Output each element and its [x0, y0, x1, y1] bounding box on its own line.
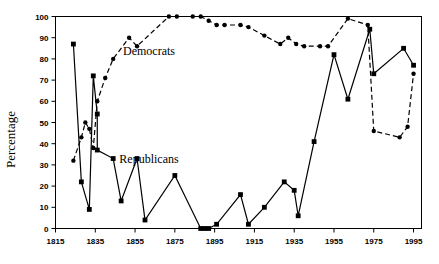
data-point-marker: [119, 199, 124, 204]
data-point-marker: [111, 156, 116, 161]
data-point-marker: [262, 205, 267, 210]
data-point-marker: [292, 188, 297, 193]
data-point-marker: [111, 57, 115, 61]
data-point-marker: [332, 52, 337, 57]
series-annotation: Republicans: [119, 152, 179, 166]
data-point-marker: [95, 148, 100, 153]
data-point-marker: [411, 72, 415, 76]
data-point-marker: [246, 25, 250, 29]
y-tick-label: 30: [40, 161, 49, 170]
data-point-marker: [372, 129, 376, 133]
y-tick-label: 100: [35, 13, 49, 22]
x-tick-label: 1875: [166, 237, 184, 246]
data-point-marker: [143, 218, 148, 223]
data-point-marker: [206, 226, 211, 231]
y-axis-ticks: 0102030405060708090100: [35, 13, 55, 234]
x-tick-label: 1975: [365, 237, 383, 246]
data-point-marker: [246, 222, 251, 227]
data-point-marker: [127, 36, 131, 40]
data-point-marker: [238, 192, 243, 197]
y-axis-title: Percentage: [3, 111, 18, 168]
data-point-marker: [401, 46, 406, 51]
x-tick-label: 1895: [206, 237, 224, 246]
y-tick-label: 40: [40, 140, 49, 149]
data-point-marker: [367, 27, 372, 32]
data-point-marker: [91, 73, 96, 78]
data-point-marker: [71, 42, 76, 47]
y-tick-label: 60: [40, 97, 49, 106]
data-point-marker: [294, 42, 298, 46]
data-point-marker: [397, 135, 401, 139]
y-tick-label: 10: [40, 203, 49, 212]
y-tick-label: 80: [40, 55, 49, 64]
data-point-marker: [302, 44, 306, 48]
series-line-republicans: [73, 29, 413, 228]
y-tick-label: 20: [40, 182, 49, 191]
data-point-marker: [103, 76, 107, 80]
data-point-marker: [214, 23, 218, 27]
data-point-marker: [71, 158, 75, 162]
data-point-marker: [167, 14, 171, 18]
data-point-marker: [199, 14, 203, 18]
data-point-marker: [79, 179, 84, 184]
data-point-marker: [83, 120, 87, 124]
data-point-marker: [278, 42, 282, 46]
series-democrats: [71, 14, 416, 163]
x-tick-label: 1915: [246, 237, 264, 246]
x-tick-label: 1955: [325, 237, 343, 246]
data-point-marker: [282, 179, 287, 184]
data-point-marker: [222, 23, 226, 27]
series-annotation: Democrats: [123, 44, 175, 58]
y-tick-label: 50: [40, 119, 49, 128]
data-point-marker: [87, 207, 92, 212]
x-tick-label: 1815: [47, 237, 65, 246]
data-point-marker: [87, 127, 91, 131]
data-point-marker: [346, 97, 351, 102]
data-point-marker: [326, 44, 330, 48]
data-point-marker: [191, 14, 195, 18]
data-point-marker: [411, 63, 416, 68]
y-axis-title-group: Percentage: [3, 111, 18, 168]
data-point-marker: [172, 173, 177, 178]
data-point-marker: [346, 16, 350, 20]
series-line-democrats: [73, 17, 413, 161]
data-point-marker: [95, 112, 100, 117]
data-point-marker: [79, 135, 83, 139]
data-point-marker: [312, 139, 317, 144]
y-tick-label: 0: [44, 225, 49, 234]
data-point-marker: [405, 125, 409, 129]
data-point-marker: [318, 44, 322, 48]
x-tick-label: 1835: [86, 237, 104, 246]
data-point-marker: [175, 14, 179, 18]
x-axis-ticks: 1815183518551875189519151935195519751995: [47, 229, 423, 246]
series-annotations: DemocratsRepublicans: [119, 44, 179, 166]
data-point-marker: [214, 222, 219, 227]
x-tick-label: 1935: [285, 237, 303, 246]
data-point-marker: [371, 71, 376, 76]
data-point-marker: [262, 33, 266, 37]
chart-figure: Percentage 0102030405060708090100 181518…: [0, 0, 439, 264]
data-point-marker: [296, 213, 301, 218]
data-point-marker: [366, 23, 370, 27]
data-point-marker: [286, 36, 290, 40]
data-point-marker: [206, 19, 210, 23]
y-tick-label: 70: [40, 76, 49, 85]
x-tick-label: 1855: [126, 237, 144, 246]
x-tick-label: 1995: [405, 237, 423, 246]
y-tick-label: 90: [40, 34, 49, 43]
data-point-marker: [238, 23, 242, 27]
